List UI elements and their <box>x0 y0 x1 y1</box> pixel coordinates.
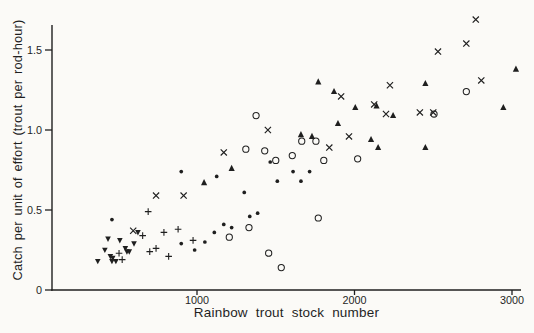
data-point-triangle-up <box>422 80 428 86</box>
data-point-x-cross <box>435 49 441 55</box>
data-point-plus <box>119 256 126 263</box>
data-point-plus <box>116 250 123 257</box>
data-point-dot <box>212 231 216 235</box>
data-point-triangle-up <box>315 78 321 84</box>
data-point-triangle-up <box>298 131 304 137</box>
data-point-circle-open <box>299 138 305 144</box>
scatter-plot: 00.51.01.5100020003000 <box>0 0 534 333</box>
data-point-triangle-down <box>131 241 137 246</box>
data-point-circle-open <box>226 234 232 240</box>
data-point-dot <box>230 226 234 230</box>
data-point-plus <box>165 253 172 260</box>
data-point-x-cross <box>221 149 227 155</box>
data-point-triangle-up <box>390 112 396 118</box>
x-tick-label: 3000 <box>500 294 524 306</box>
data-point-triangle-up <box>352 104 358 110</box>
data-point-triangle-down <box>113 259 119 264</box>
data-point-circle-open <box>355 156 361 162</box>
scatter-figure: 00.51.01.5100020003000 Rainbow trout sto… <box>0 0 534 333</box>
data-point-x-cross <box>130 228 136 234</box>
data-point-triangle-up <box>375 144 381 150</box>
data-point-x-cross <box>473 17 479 23</box>
y-tick-label: 1.0 <box>27 124 42 136</box>
y-axis-title: Catch per unit of effort (trout per rod-… <box>10 5 25 295</box>
data-point-circle-open <box>262 148 268 154</box>
data-point-x-cross <box>387 82 393 88</box>
data-point-triangle-down <box>105 237 111 242</box>
data-point-x-cross <box>265 127 271 133</box>
data-point-triangle-up <box>229 165 235 171</box>
data-point-plus <box>153 245 160 252</box>
data-point-circle-open <box>266 250 272 256</box>
data-point-circle-open <box>289 153 295 159</box>
data-point-dot <box>256 211 260 215</box>
data-point-triangle-down <box>117 238 123 243</box>
data-point-triangle-up <box>513 66 519 72</box>
data-point-x-cross <box>346 133 352 139</box>
data-point-dot <box>179 242 183 246</box>
data-point-dot <box>268 160 272 164</box>
data-point-dot <box>215 175 219 179</box>
data-point-circle-open <box>313 138 319 144</box>
data-point-dot <box>308 170 312 174</box>
data-point-dot <box>203 240 207 244</box>
data-point-dot <box>222 223 226 227</box>
data-point-circle-open <box>321 157 327 163</box>
data-point-x-cross <box>478 77 484 83</box>
data-point-x-cross <box>383 111 389 117</box>
x-axis-title: Rainbow trout stock number <box>52 305 521 320</box>
data-point-triangle-up <box>201 179 207 185</box>
data-point-triangle-up <box>309 133 315 139</box>
data-point-triangle-up <box>331 88 337 94</box>
data-point-plus <box>139 232 146 239</box>
data-point-dot <box>110 218 114 222</box>
data-point-plus <box>145 208 152 215</box>
data-point-plus <box>161 229 168 236</box>
data-point-dot <box>248 215 252 219</box>
data-point-circle-open <box>315 215 321 221</box>
data-point-x-cross <box>153 193 159 199</box>
data-point-plus <box>175 226 182 233</box>
data-point-dot <box>193 248 197 252</box>
data-point-x-cross <box>326 145 332 151</box>
y-tick-label: 0.5 <box>27 204 42 216</box>
data-point-dot <box>299 179 303 183</box>
x-tick-label: 1000 <box>185 294 209 306</box>
data-point-plus <box>190 237 197 244</box>
data-point-triangle-down <box>102 248 108 253</box>
data-point-circle-open <box>463 89 469 95</box>
data-point-x-cross <box>338 93 344 99</box>
data-point-dot <box>179 170 183 174</box>
data-point-x-cross <box>181 193 187 199</box>
data-point-triangle-up <box>368 136 374 142</box>
data-point-dot <box>291 170 295 174</box>
data-point-circle-open <box>253 113 259 119</box>
y-tick-label: 0 <box>36 284 42 296</box>
data-point-plus <box>146 248 153 255</box>
data-point-circle-open <box>273 157 279 163</box>
data-point-triangle-down <box>95 259 101 264</box>
x-tick-label: 2000 <box>342 294 366 306</box>
data-point-x-cross <box>417 109 423 115</box>
data-point-circle-open <box>243 146 249 152</box>
data-point-dot <box>275 179 279 183</box>
data-point-x-cross <box>463 41 469 47</box>
data-point-triangle-up <box>500 104 506 110</box>
data-point-dot <box>242 191 246 195</box>
data-point-circle-open <box>278 265 284 271</box>
data-point-circle-open <box>246 225 252 231</box>
data-point-triangle-up <box>335 120 341 126</box>
data-point-triangle-up <box>422 144 428 150</box>
y-tick-label: 1.5 <box>27 44 42 56</box>
